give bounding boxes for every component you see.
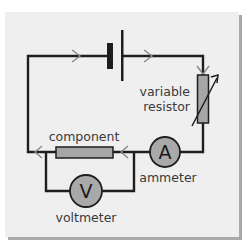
cell-negative-plate bbox=[107, 43, 113, 69]
variable-resistor-label-line1: variable bbox=[140, 84, 191, 99]
cell-positive-plate bbox=[121, 30, 124, 81]
voltmeter-symbol-letter: V bbox=[80, 180, 93, 202]
ammeter-symbol-letter: A bbox=[159, 141, 172, 163]
circuit-diagram: variable resistor component A ammeter V … bbox=[0, 0, 248, 249]
ammeter-label: ammeter bbox=[139, 170, 197, 185]
component-label: component bbox=[49, 129, 120, 144]
voltmeter-label: voltmeter bbox=[55, 210, 117, 225]
component-symbol bbox=[56, 147, 113, 158]
variable-resistor-label-line2: resistor bbox=[143, 99, 191, 114]
